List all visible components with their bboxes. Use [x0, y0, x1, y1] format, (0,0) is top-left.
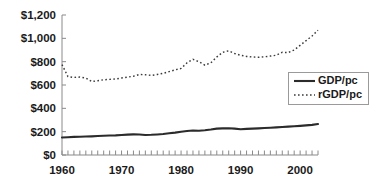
x-tick-label: 2000 — [287, 164, 313, 176]
x-axis-tick-labels: 19601970198019902000 — [49, 164, 313, 176]
chart-legend: GDP/pc rGDP/pc — [289, 73, 369, 105]
y-tick-label: $400 — [30, 102, 56, 114]
y-tick-label: $1,200 — [21, 9, 56, 21]
legend-label-rgdp-pc: rGDP/pc — [318, 88, 362, 100]
x-tick-label: 1980 — [168, 164, 194, 176]
y-tick-label: $600 — [30, 79, 56, 91]
y-tick-label: $1,000 — [21, 32, 56, 44]
chart-container: $0$200$400$600$800$1,000$1,200 196019701… — [0, 0, 386, 187]
x-tick-label: 1970 — [109, 164, 135, 176]
x-tick-label: 1960 — [49, 164, 75, 176]
y-tick-label: $800 — [30, 56, 56, 68]
legend-label-gdp-pc: GDP/pc — [318, 74, 358, 86]
y-tick-label: $200 — [30, 126, 56, 138]
x-axis-tick-marks — [62, 151, 318, 156]
line-chart: $0$200$400$600$800$1,000$1,200 196019701… — [0, 0, 386, 187]
y-axis-tick-marks — [62, 15, 66, 155]
series-line-gdp-pc — [62, 124, 318, 137]
x-tick-label: 1990 — [228, 164, 254, 176]
y-tick-label: $0 — [43, 149, 56, 161]
series-line-rgdp-pc — [62, 30, 318, 81]
y-axis-tick-labels: $0$200$400$600$800$1,000$1,200 — [21, 9, 56, 161]
